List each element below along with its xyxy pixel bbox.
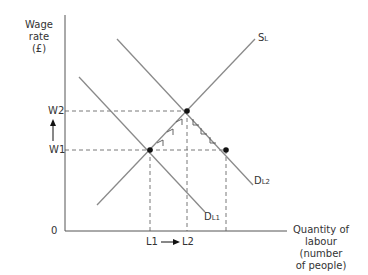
wage-up-arrowhead (50, 119, 56, 126)
x-axis-label: Quantity of labour (number of people) (285, 224, 357, 272)
demand-2-label-sub: L2 (262, 178, 270, 186)
l2-label: L2 (182, 236, 194, 248)
shifted-demand-point (223, 147, 229, 153)
w1-label: W1 (49, 144, 65, 156)
y-axis-label-line1: Wage rate (14, 19, 64, 43)
l1-label: L1 (146, 236, 158, 248)
supply-label: SL (258, 32, 268, 45)
demand-curve-1 (79, 77, 205, 212)
labour-right-arrowhead (173, 239, 180, 245)
y-axis-label-line2: (£) (14, 43, 64, 55)
x-axis-label-line1: Quantity of (285, 224, 357, 236)
w2-label: W2 (48, 105, 64, 117)
demand-1-label: DL1 (204, 211, 220, 224)
x-axis-label-line3: of people) (285, 260, 357, 272)
origin-label: 0 (51, 225, 57, 237)
demand-1-label-sub: L1 (212, 214, 220, 222)
movement-arrows-demand (193, 119, 216, 143)
demand-2-label: DL2 (254, 175, 270, 188)
demand-2-label-main: D (254, 175, 262, 186)
equilibrium-point-initial (147, 147, 153, 153)
movement-arrows-supply (157, 119, 182, 146)
equilibrium-point-new (184, 108, 190, 114)
dashed-guides (65, 111, 226, 231)
y-axis-label: Wage rate (£) (14, 19, 64, 55)
supply-label-sub: L (264, 35, 268, 43)
x-axis-label-line2: labour (number (285, 236, 357, 260)
demand-1-label-main: D (204, 211, 212, 222)
